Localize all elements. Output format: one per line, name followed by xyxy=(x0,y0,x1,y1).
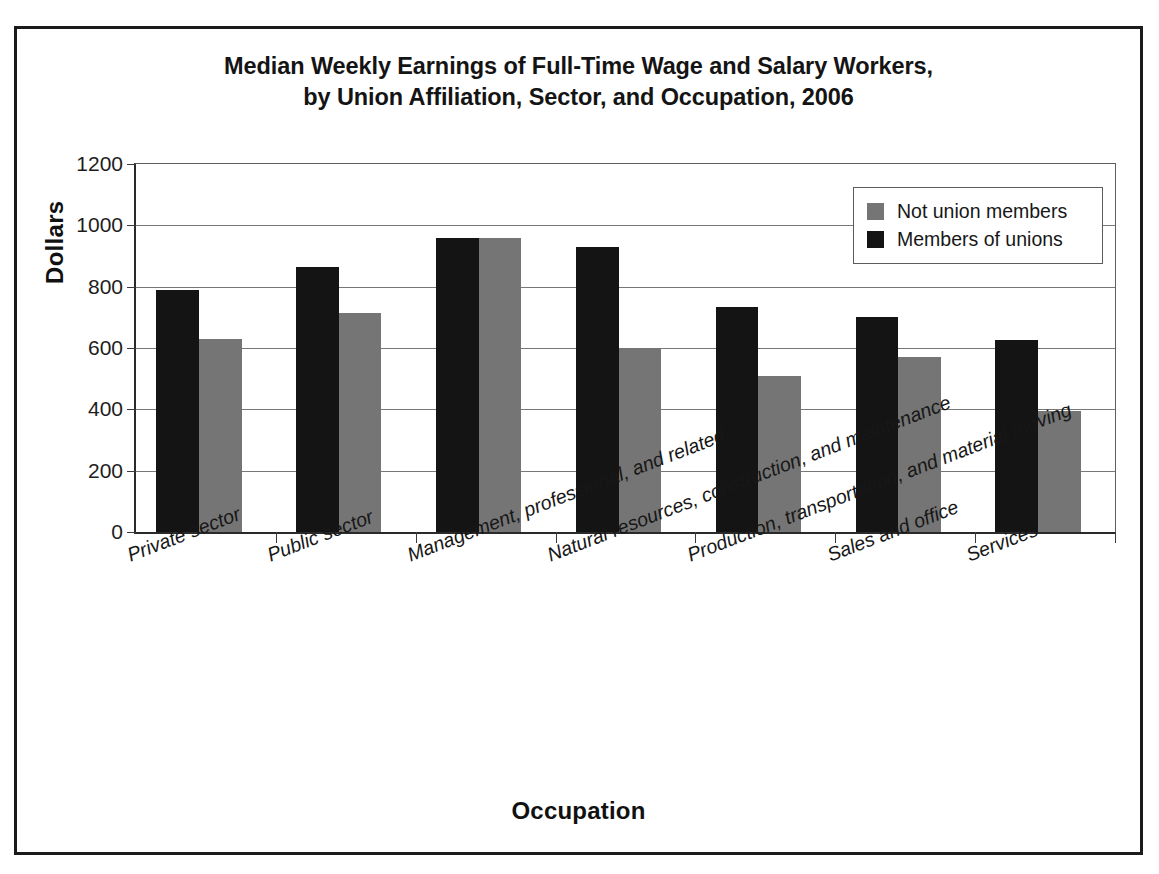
y-tick-mark-200 xyxy=(127,471,136,472)
chart-title: Median Weekly Earnings of Full-Time Wage… xyxy=(17,51,1140,113)
y-tick-label-800: 800 xyxy=(88,275,123,299)
y-tick-label-200: 200 xyxy=(88,459,123,483)
y-tick-mark-800 xyxy=(127,287,136,288)
legend-label-union: Members of unions xyxy=(897,228,1063,251)
bar-not-union-members-1 xyxy=(339,313,382,532)
legend-label-nonunion: Not union members xyxy=(897,200,1067,223)
y-tick-label-600: 600 xyxy=(88,336,123,360)
y-tick-label-1200: 1200 xyxy=(76,152,123,176)
bar-members-of-unions-1 xyxy=(296,267,339,532)
y-tick-mark-0 xyxy=(127,532,136,533)
legend-item-members-of-unions[interactable]: Members of unions xyxy=(867,225,1090,253)
gridline-800 xyxy=(136,287,1115,288)
chart-title-line-1: Median Weekly Earnings of Full-Time Wage… xyxy=(17,51,1140,82)
legend-swatch-icon-union xyxy=(867,231,884,248)
x-tick-mark-6 xyxy=(1115,532,1116,543)
bar-members-of-unions-0 xyxy=(156,290,199,532)
y-tick-mark-1000 xyxy=(127,225,136,226)
chart-legend: Not union members Members of unions xyxy=(853,187,1103,264)
y-tick-label-0: 0 xyxy=(111,520,123,544)
x-axis-title: Occupation xyxy=(17,797,1140,825)
y-tick-label-400: 400 xyxy=(88,397,123,421)
chart-title-line-2: by Union Affiliation, Sector, and Occupa… xyxy=(17,82,1140,113)
y-tick-mark-600 xyxy=(127,348,136,349)
y-axis-title: Dollars xyxy=(41,201,69,284)
bar-members-of-unions-2 xyxy=(436,238,479,532)
legend-item-not-union-members[interactable]: Not union members xyxy=(867,197,1090,225)
y-tick-label-1000: 1000 xyxy=(76,213,123,237)
figure-frame: Median Weekly Earnings of Full-Time Wage… xyxy=(14,26,1143,855)
bar-not-union-members-2 xyxy=(479,238,522,532)
legend-swatch-icon-nonunion xyxy=(867,203,884,220)
y-tick-mark-1200 xyxy=(127,164,136,165)
y-tick-mark-400 xyxy=(127,409,136,410)
